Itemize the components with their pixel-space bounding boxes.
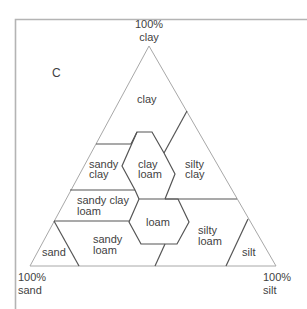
region-label-sandy-clay-2: clay <box>89 168 109 180</box>
vertex-top-name: clay <box>139 31 159 43</box>
vertex-right-pct: 100% <box>263 271 291 283</box>
region-label-silty-clay-2: clay <box>185 168 205 180</box>
panel-label: C <box>52 66 61 80</box>
vertex-left-name: sand <box>18 284 42 296</box>
region-label-loam: loam <box>146 216 170 228</box>
vertex-right-name: silt <box>263 284 276 296</box>
region-label-silt: silt <box>242 246 255 258</box>
region-label-silty-loam-2: loam <box>198 235 222 247</box>
region-label-clay: clay <box>137 93 157 105</box>
vertex-left-pct: 100% <box>18 271 46 283</box>
vertex-top-pct: 100% <box>135 18 163 30</box>
soil-texture-triangle: C 100% clay 100% sand 100% silt clay san… <box>0 0 307 309</box>
region-label-sandy-clay-loam-2: loam <box>77 205 101 217</box>
region-label-sand: sand <box>42 246 66 258</box>
region-label-sandy-loam-2: loam <box>93 244 117 256</box>
region-label-clay-loam-2: loam <box>138 168 162 180</box>
triangle-outline <box>30 46 276 266</box>
